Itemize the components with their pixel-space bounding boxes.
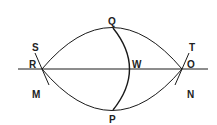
label-q: Q xyxy=(108,16,116,27)
label-n: N xyxy=(187,89,194,100)
label-p: P xyxy=(109,114,116,125)
lower-arc xyxy=(42,69,182,111)
label-t: T xyxy=(189,42,195,53)
label-s: S xyxy=(32,42,39,53)
upper-arc xyxy=(42,28,182,70)
label-m: M xyxy=(32,89,40,100)
geometry-diagram: S R M Q W P T O N xyxy=(0,0,217,125)
label-w: W xyxy=(132,59,142,70)
label-r: R xyxy=(29,59,37,70)
label-o: O xyxy=(187,59,195,70)
